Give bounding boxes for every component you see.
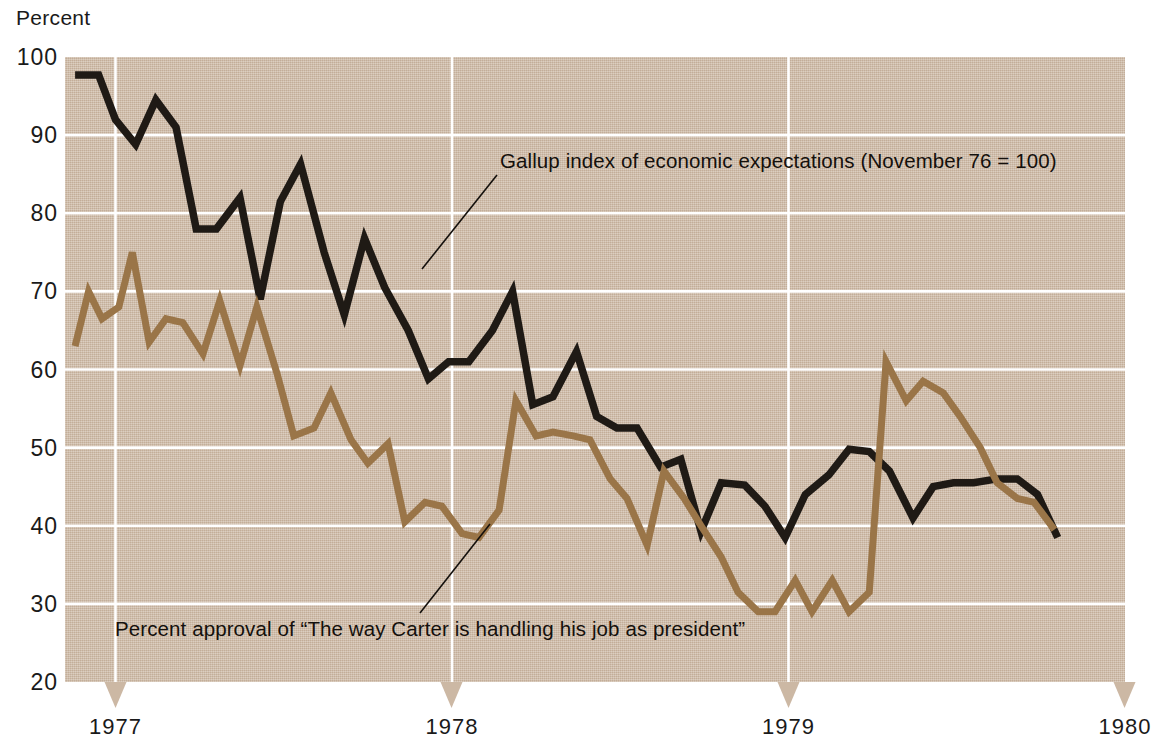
y-tick-label: 30: [0, 590, 58, 617]
leader-line-gallup: [422, 175, 497, 269]
y-tick-label: 50: [0, 434, 58, 461]
y-tick-label: 40: [0, 512, 58, 539]
y-tick-label: 100: [0, 44, 58, 71]
y-axis-tick-labels: 1009080706050403020: [0, 0, 58, 742]
annotation-leader-lines: [65, 57, 1125, 682]
x-tick: 1979: [762, 682, 815, 740]
x-tick-label: 1979: [762, 714, 815, 740]
x-tick: 1980: [1099, 682, 1151, 740]
y-tick-label: 80: [0, 200, 58, 227]
x-tick: 1977: [89, 682, 142, 740]
x-tick-label: 1978: [425, 714, 478, 740]
x-tick-triangle-marker-icon: [104, 682, 126, 708]
x-tick-label: 1980: [1099, 714, 1151, 740]
annotation-layer: Gallup index of economic expectations (N…: [65, 57, 1125, 682]
y-tick-label: 90: [0, 122, 58, 149]
plot-area: Gallup index of economic expectations (N…: [65, 57, 1125, 682]
y-tick-label: 60: [0, 356, 58, 383]
x-tick-triangle-marker-icon: [777, 682, 799, 708]
x-tick-label: 1977: [89, 714, 142, 740]
x-tick-triangle-marker-icon: [441, 682, 463, 708]
x-tick: 1978: [425, 682, 478, 740]
y-tick-label: 70: [0, 278, 58, 305]
leader-line-carter: [420, 524, 490, 613]
x-axis: 1977197819791980: [0, 682, 1141, 742]
x-tick-triangle-marker-icon: [1114, 682, 1136, 708]
